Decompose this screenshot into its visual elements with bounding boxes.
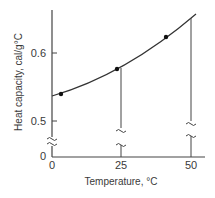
data-point [115, 67, 119, 71]
x-tick-label-0: 0 [49, 159, 55, 171]
data-point [59, 92, 63, 96]
break-icon [186, 123, 196, 126]
y-axis-break-icon [47, 138, 57, 141]
y-axis-label: Heat capacity, cal/g°C [13, 33, 24, 131]
y-tick-label-0.6: 0.6 [31, 47, 46, 59]
y-tick-label-0: 0 [40, 150, 46, 162]
x-axis-label: Temperature, °C [85, 176, 158, 187]
heat-capacity-chart: 0.6 0.5 0 0 25 50 Temperature, °C Heat c… [0, 0, 215, 198]
x-tick-label-25: 25 [115, 159, 127, 171]
y-axis-break-icon [47, 143, 57, 146]
heat-capacity-curve [52, 14, 196, 96]
x-tick-label-50: 50 [185, 159, 197, 171]
y-tick-label-0.5: 0.5 [31, 115, 46, 127]
break-icon [116, 130, 126, 133]
data-point [164, 35, 168, 39]
